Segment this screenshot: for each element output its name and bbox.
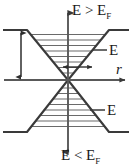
label-r-axis-text: r — [116, 61, 122, 77]
label-energy-above-fermi-text: E > E — [72, 2, 106, 18]
label-energy-below-fermi-text: E < E — [61, 147, 95, 163]
label-energy-above-fermi-subscript: F — [106, 11, 111, 21]
label-lower-band-text: E — [107, 102, 116, 118]
label-energy-below-fermi-subscript: F — [95, 156, 100, 165]
label-upper-band-text: E — [109, 42, 118, 58]
band-diagram-svg — [0, 0, 132, 165]
label-energy-above-fermi: E > EF — [72, 3, 111, 21]
label-upper-band: E — [109, 43, 118, 58]
label-lower-band: E — [107, 103, 116, 118]
label-r-axis: r — [116, 62, 122, 77]
band-diagram-figure: E > EF E < EF E E r — [0, 0, 132, 165]
label-energy-below-fermi: E < EF — [61, 148, 100, 165]
